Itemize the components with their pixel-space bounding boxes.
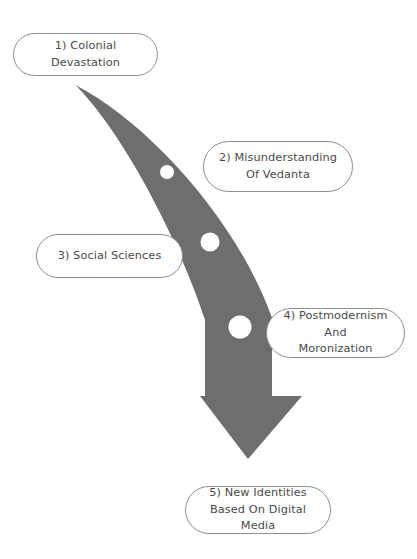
node-label-1: 1) Colonial Devastation xyxy=(23,38,148,71)
node-box-1[interactable]: 1) Colonial Devastation xyxy=(13,33,158,76)
node-box-3[interactable]: 3) Social Sciences xyxy=(36,234,183,278)
node-box-5[interactable]: 5) New Identities Based On Digital Media xyxy=(185,486,331,534)
node-box-4[interactable]: 4) Postmodernism And Moronization xyxy=(266,308,405,358)
diagram-canvas: 1) Colonial Devastation 2) Misunderstand… xyxy=(0,0,417,559)
node-label-5: 5) New Identities Based On Digital Media xyxy=(195,485,321,534)
node-label-4: 4) Postmodernism And Moronization xyxy=(276,308,395,357)
node-label-3: 3) Social Sciences xyxy=(58,248,162,264)
curved-arrow-graphic xyxy=(0,0,417,559)
node-label-2: 2) Misunderstanding Of Vedanta xyxy=(219,150,337,183)
node-box-2[interactable]: 2) Misunderstanding Of Vedanta xyxy=(203,141,353,192)
